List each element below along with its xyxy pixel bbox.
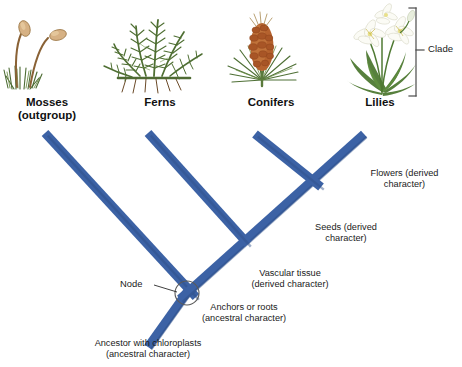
taxon-label-mosses-name: Mosses [26, 96, 68, 108]
taxon-label-conifers: Conifers [228, 96, 314, 109]
taxon-label-mosses-sub: (outgroup) [2, 109, 92, 122]
annotation-vascular-tissue-line1: Vascular tissue [259, 268, 321, 278]
annotation-vascular-tissue: Vascular tissue (derived character) [236, 268, 344, 290]
node-callout-text: Node [120, 278, 142, 289]
taxon-label-ferns: Ferns [118, 96, 202, 109]
moss-plant-illustration [4, 19, 68, 89]
taxon-label-lilies: Lilies [342, 96, 418, 109]
phylogenetic-tree-figure: Mosses (outgroup) Ferns Conifers Lilies … [0, 0, 462, 367]
fern-plant-illustration [104, 20, 202, 93]
clade-label-text: Clade [428, 43, 453, 54]
annotation-seeds-line1: Seeds (derived [315, 222, 377, 232]
annotation-ancestor-with-chloroplasts: Ancestor with chloroplasts (ancestral ch… [72, 338, 224, 360]
annotation-ancestor-line2: (ancestral character) [72, 349, 224, 360]
annotation-flowers-line1: Flowers (derived [371, 168, 439, 178]
taxon-label-conifers-name: Conifers [248, 96, 295, 108]
annotation-anchors-line1: Anchors or roots [210, 302, 277, 312]
node-callout-label: Node [120, 278, 142, 289]
annotation-flowers-line2: character) [352, 179, 457, 190]
lily-bloom [374, 2, 399, 25]
clade-label: Clade [428, 43, 453, 54]
taxon-label-ferns-name: Ferns [144, 96, 175, 108]
taxon-label-mosses: Mosses (outgroup) [2, 96, 92, 122]
annotation-flowers: Flowers (derived character) [352, 168, 457, 190]
taxon-label-lilies-name: Lilies [365, 96, 394, 108]
annotation-seeds-line2: character) [296, 233, 396, 244]
conifer-cone-illustration [228, 12, 298, 86]
lily-flower-illustration [346, 2, 418, 96]
annotation-ancestor-line1: Ancestor with chloroplasts [95, 338, 202, 348]
annotation-anchors-or-roots: Anchors or roots (ancestral character) [186, 302, 302, 324]
annotation-anchors-line2: (ancestral character) [186, 313, 302, 324]
annotation-vascular-tissue-line2: (derived character) [236, 279, 344, 290]
annotation-seeds: Seeds (derived character) [296, 222, 396, 244]
